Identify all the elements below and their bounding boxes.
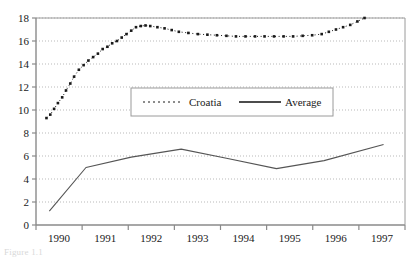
series-marker-croatia — [356, 20, 359, 23]
series-marker-croatia — [349, 24, 352, 27]
series-marker-croatia — [235, 35, 238, 38]
y-tick-label-4: 4 — [24, 173, 30, 185]
series-line-average — [49, 145, 383, 212]
series-marker-croatia — [273, 35, 276, 38]
y-tick-label-2: 2 — [24, 196, 30, 208]
series-marker-croatia — [135, 26, 138, 29]
series-marker-croatia — [225, 35, 228, 38]
series-marker-croatia — [311, 34, 314, 37]
series-marker-croatia — [263, 35, 266, 38]
figure-caption: Figure 1.1 — [4, 247, 43, 257]
series-marker-croatia — [206, 33, 209, 36]
y-tick-label-18: 18 — [18, 12, 30, 24]
y-tick-label-6: 6 — [24, 150, 30, 162]
series-marker-croatia — [120, 36, 123, 39]
series-marker-croatia — [116, 40, 119, 43]
series-marker-croatia — [320, 33, 323, 36]
legend-label-croatia: Croatia — [189, 96, 221, 108]
line-chart: 0246810121416181990199119921993199419951… — [0, 0, 419, 258]
series-marker-croatia — [163, 27, 166, 30]
series-marker-croatia — [328, 31, 331, 34]
series-marker-croatia — [125, 33, 128, 36]
x-tick-label-1993: 1993 — [186, 232, 209, 244]
series-marker-croatia — [170, 29, 173, 32]
series-marker-croatia — [92, 56, 95, 59]
series-marker-croatia — [87, 59, 90, 62]
series-marker-croatia — [53, 108, 56, 111]
series-marker-croatia — [149, 25, 152, 28]
series-marker-croatia — [292, 35, 295, 38]
series-marker-croatia — [65, 89, 68, 92]
series-marker-croatia — [78, 68, 81, 71]
chart-figure: 0246810121416181990199119921993199419951… — [0, 0, 419, 258]
x-tick-label-1994: 1994 — [233, 232, 256, 244]
y-tick-label-0: 0 — [24, 219, 30, 231]
series-marker-croatia — [301, 35, 304, 38]
y-tick-label-8: 8 — [24, 127, 30, 139]
series-marker-croatia — [178, 31, 181, 34]
x-tick-label-1995: 1995 — [279, 232, 302, 244]
series-marker-croatia — [244, 35, 247, 38]
series-marker-croatia — [139, 25, 142, 28]
series-marker-croatia — [106, 45, 109, 48]
y-tick-label-16: 16 — [18, 35, 30, 47]
series-marker-croatia — [97, 52, 100, 55]
series-marker-croatia — [363, 17, 366, 20]
series-marker-croatia — [101, 48, 104, 51]
series-marker-croatia — [73, 75, 76, 78]
y-tick-label-14: 14 — [18, 58, 30, 70]
series-marker-croatia — [130, 29, 133, 32]
series-marker-croatia — [61, 96, 64, 99]
x-tick-label-1990: 1990 — [48, 232, 71, 244]
y-tick-label-12: 12 — [18, 81, 29, 93]
series-marker-croatia — [49, 113, 52, 116]
series-marker-croatia — [144, 24, 147, 27]
series-marker-croatia — [111, 42, 114, 45]
y-tick-label-10: 10 — [18, 104, 30, 116]
series-marker-croatia — [342, 26, 345, 29]
series-marker-croatia — [82, 64, 85, 67]
series-marker-croatia — [197, 33, 200, 36]
series-marker-croatia — [187, 32, 190, 35]
series-marker-croatia — [282, 35, 285, 38]
series-marker-croatia — [45, 117, 48, 120]
series-marker-croatia — [335, 28, 338, 31]
x-tick-label-1992: 1992 — [140, 232, 162, 244]
series-marker-croatia — [57, 102, 60, 105]
series-marker-croatia — [254, 35, 257, 38]
series-marker-croatia — [156, 26, 159, 29]
series-marker-croatia — [69, 82, 72, 85]
series-marker-croatia — [216, 34, 219, 37]
legend-label-average: Average — [285, 96, 322, 108]
x-tick-label-1991: 1991 — [94, 232, 116, 244]
x-tick-label-1997: 1997 — [371, 232, 394, 244]
x-tick-label-1996: 1996 — [325, 232, 348, 244]
